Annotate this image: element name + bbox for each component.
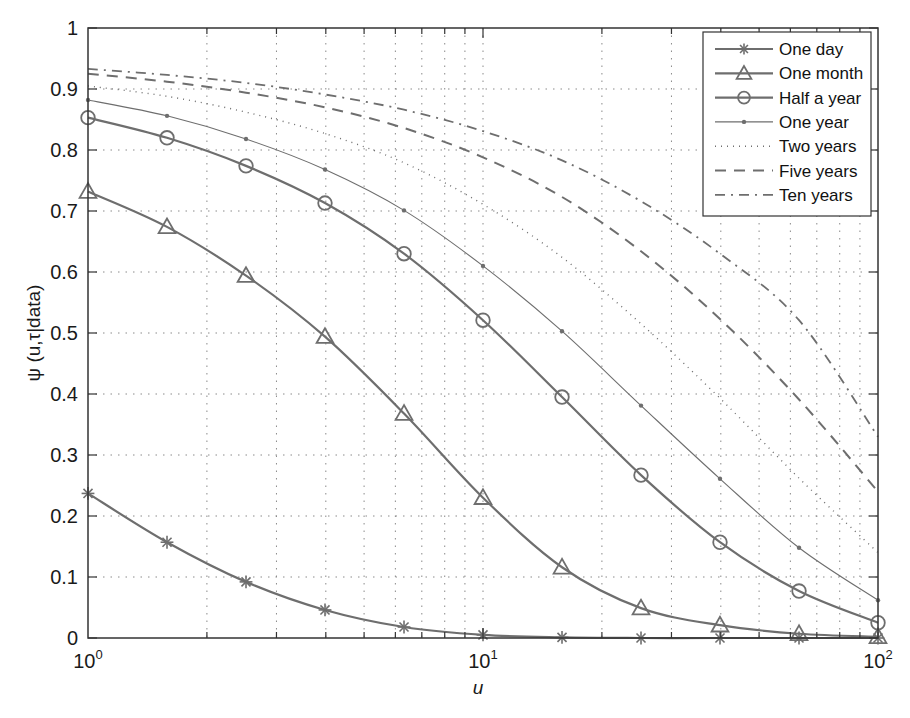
y-tick-label: 0 xyxy=(67,627,78,649)
x-tick-label: 100 xyxy=(73,647,102,672)
dot-marker xyxy=(718,477,722,481)
dot-marker xyxy=(402,208,406,212)
y-tick-label: 0.3 xyxy=(50,444,78,466)
legend-label: One month xyxy=(779,64,863,83)
asterisk-marker xyxy=(240,575,253,588)
circle-marker xyxy=(318,196,332,210)
circle-marker xyxy=(713,535,727,549)
circle-marker xyxy=(555,390,569,404)
circle-marker xyxy=(397,247,411,261)
dot-marker xyxy=(742,120,746,124)
circle-marker xyxy=(634,468,648,482)
asterisk-marker xyxy=(161,536,174,549)
y-tick-label: 0.7 xyxy=(50,200,78,222)
asterisk-marker xyxy=(398,621,411,634)
y-tick-label: 1 xyxy=(67,17,78,39)
legend-label: Five years xyxy=(779,162,857,181)
circle-marker xyxy=(239,159,253,173)
y-axis-label: ψ (u,τ|data) xyxy=(23,285,44,382)
chart: 00.10.20.30.40.50.60.70.80.91 100101102 … xyxy=(0,0,910,718)
y-tick-label: 0.5 xyxy=(50,322,78,344)
circle-marker xyxy=(476,313,490,327)
dot-marker xyxy=(244,137,248,141)
y-tick-labels: 00.10.20.30.40.50.60.70.80.91 xyxy=(50,17,78,649)
circle-marker xyxy=(792,584,806,598)
dot-marker xyxy=(560,329,564,333)
asterisk-marker xyxy=(738,43,749,54)
series-one-month xyxy=(80,183,887,643)
x-tick-label: 101 xyxy=(468,647,497,672)
legend-label: Ten years xyxy=(779,186,853,205)
legend-label: One year xyxy=(779,113,849,132)
y-tick-label: 0.4 xyxy=(50,383,78,405)
x-tick-label: 102 xyxy=(863,647,892,672)
dot-marker xyxy=(165,114,169,118)
legend-label: Two years xyxy=(779,137,856,156)
y-tick-label: 0.8 xyxy=(50,139,78,161)
circle-marker xyxy=(738,92,750,104)
x-axis-label: u xyxy=(473,677,484,698)
legend: One dayOne monthHalf a yearOne yearTwo y… xyxy=(703,32,871,216)
dot-marker xyxy=(639,403,643,407)
legend-label: One day xyxy=(779,40,844,59)
y-tick-label: 0.9 xyxy=(50,78,78,100)
legend-label: Half a year xyxy=(779,89,862,108)
dot-marker xyxy=(323,167,327,171)
asterisk-marker xyxy=(319,604,332,617)
circle-marker xyxy=(160,131,174,145)
y-tick-label: 0.6 xyxy=(50,261,78,283)
x-tick-labels: 100101102 xyxy=(73,647,892,672)
y-tick-label: 0.1 xyxy=(50,566,78,588)
dot-marker xyxy=(797,546,801,550)
y-tick-label: 0.2 xyxy=(50,505,78,527)
dot-marker xyxy=(481,264,485,268)
